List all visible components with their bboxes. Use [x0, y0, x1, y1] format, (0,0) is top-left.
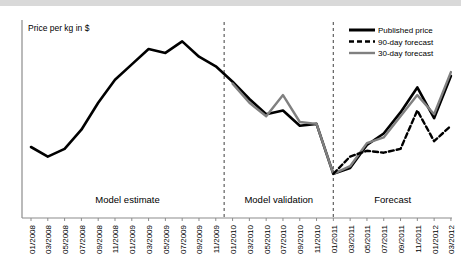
x-axis-tick-label: 01/2012	[431, 224, 440, 253]
x-axis-tick-label: 07/2010	[279, 224, 288, 253]
x-axis-tick-label: 03/2010	[246, 224, 255, 253]
x-axis-tick-label: 03/2008	[44, 224, 53, 253]
region-divider-lines	[224, 22, 333, 218]
region-label: Model validation	[244, 194, 313, 205]
series-line	[31, 41, 451, 173]
x-axis-tick-label: 05/2011	[363, 224, 372, 253]
x-axis-tick-label: 09/2009	[195, 224, 204, 253]
x-axis-tick-label: 09/2010	[296, 224, 305, 253]
x-axis-tick-labels: 01/200803/200805/200807/200809/200811/20…	[28, 224, 457, 253]
x-axis-tick-label: 01/2009	[128, 224, 137, 253]
chart-figure: Price per kg in $ 01/200803/200805/20080…	[0, 0, 461, 271]
chart-legend: Published price90-day forecast30-day for…	[349, 26, 434, 58]
y-axis-title: Price per kg in $	[28, 23, 90, 33]
x-axis-tick-label: 03/2012	[447, 224, 456, 253]
x-axis-tick-label: 03/2011	[347, 224, 356, 253]
x-axis-tick-label: 05/2009	[162, 224, 171, 253]
x-axis-tick-label: 07/2009	[179, 224, 188, 253]
region-label: Forecast	[374, 194, 411, 205]
legend-label: 30-day forecast	[378, 49, 434, 58]
x-axis-tick-label: 01/2011	[330, 224, 339, 253]
legend-label: Published price	[378, 26, 433, 35]
x-axis-tick-label: 03/2009	[145, 224, 154, 253]
x-axis-tick-label: 01/2008	[28, 224, 37, 253]
x-axis-tick-label: 05/2008	[61, 224, 70, 253]
line-chart-canvas: Price per kg in $ 01/200803/200805/20080…	[0, 6, 461, 271]
x-axis-tick-label: 11/2009	[212, 224, 221, 253]
region-label: Model estimate	[95, 194, 159, 205]
x-axis-tick-label: 09/2011	[397, 224, 406, 253]
x-axis-tick-label: 07/2008	[78, 224, 87, 253]
x-axis-tick-label: 11/2011	[414, 224, 423, 252]
x-axis-tick-label: 11/2008	[111, 224, 120, 253]
region-labels: Model estimateModel validationForecast	[95, 194, 411, 205]
data-series-layer	[31, 41, 451, 173]
x-axis-tick-label: 09/2008	[95, 224, 104, 253]
legend-label: 90-day forecast	[378, 38, 434, 47]
x-axis-tick-label: 07/2011	[380, 224, 389, 253]
x-axis-tick-label: 05/2010	[263, 224, 272, 253]
x-axis-tick-label: 01/2010	[229, 224, 238, 253]
x-axis-tick-label: 11/2010	[313, 224, 322, 253]
